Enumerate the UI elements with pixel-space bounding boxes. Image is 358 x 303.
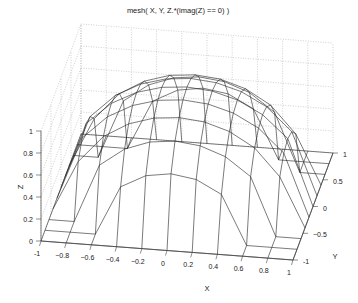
- mesh-plot: mesh( X, Y, Z.*(imag(Z) == 0) ) -1−0.8−0…: [0, 0, 358, 303]
- y-tick-label: 0.5: [333, 178, 343, 185]
- x-tick-label: 1: [287, 269, 291, 276]
- z-tick-label: 0.2: [23, 216, 33, 223]
- x-tick-label: 0.6: [234, 265, 244, 272]
- chart-title: mesh( X, Y, Z.*(imag(Z) == 0) ): [127, 6, 230, 15]
- mesh-figure: mesh( X, Y, Z.*(imag(Z) == 0) ) -1−0.8−0…: [0, 0, 358, 303]
- x-tick-label: −0.6: [80, 254, 94, 261]
- y-tick-label: -1: [303, 258, 309, 265]
- z-tick-label: 1: [29, 128, 33, 135]
- x-axis-label: X: [204, 284, 209, 293]
- x-tick-label: 0.8: [259, 267, 269, 274]
- z-tick-label: 0.4: [23, 194, 33, 201]
- x-tick-label: 0.4: [209, 263, 219, 270]
- x-tick-label: 0.2: [183, 261, 193, 268]
- x-tick-label: 0: [161, 260, 165, 267]
- y-axis-label: Y: [332, 252, 337, 261]
- axes: -1−0.8−0.6−0.4−0.200.20.40.60.81-1−0.500…: [23, 128, 347, 277]
- y-tick-label: −0.5: [313, 231, 327, 238]
- z-tick-label: 0.8: [23, 150, 33, 157]
- z-tick-label: 0: [29, 238, 33, 245]
- x-tick-label: -1: [34, 250, 40, 257]
- z-tick-label: 0.6: [23, 172, 33, 179]
- axis-grid: [41, 24, 333, 241]
- z-axis-label: Z: [16, 184, 25, 189]
- x-tick-label: −0.4: [106, 256, 120, 263]
- y-tick-label: 1: [343, 151, 347, 158]
- y-tick-label: 0: [323, 205, 327, 212]
- x-tick-label: −0.8: [55, 252, 69, 259]
- mesh-surface: [41, 75, 333, 260]
- x-tick-label: −0.2: [131, 258, 145, 265]
